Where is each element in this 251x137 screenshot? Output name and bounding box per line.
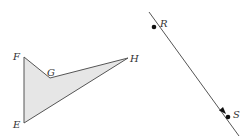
vertex-label-f: F — [12, 51, 21, 62]
vertex-label-h: H — [129, 53, 139, 64]
vertex-label-e: E — [12, 119, 21, 130]
point-s — [226, 115, 231, 120]
point-r — [152, 25, 157, 30]
diagram-canvas: F G H E R S — [0, 0, 251, 137]
polygon-efgh — [24, 57, 128, 123]
line-rs — [149, 12, 239, 136]
point-label-s: S — [233, 109, 240, 120]
point-label-r: R — [159, 18, 168, 29]
vertex-label-g: G — [47, 67, 55, 78]
